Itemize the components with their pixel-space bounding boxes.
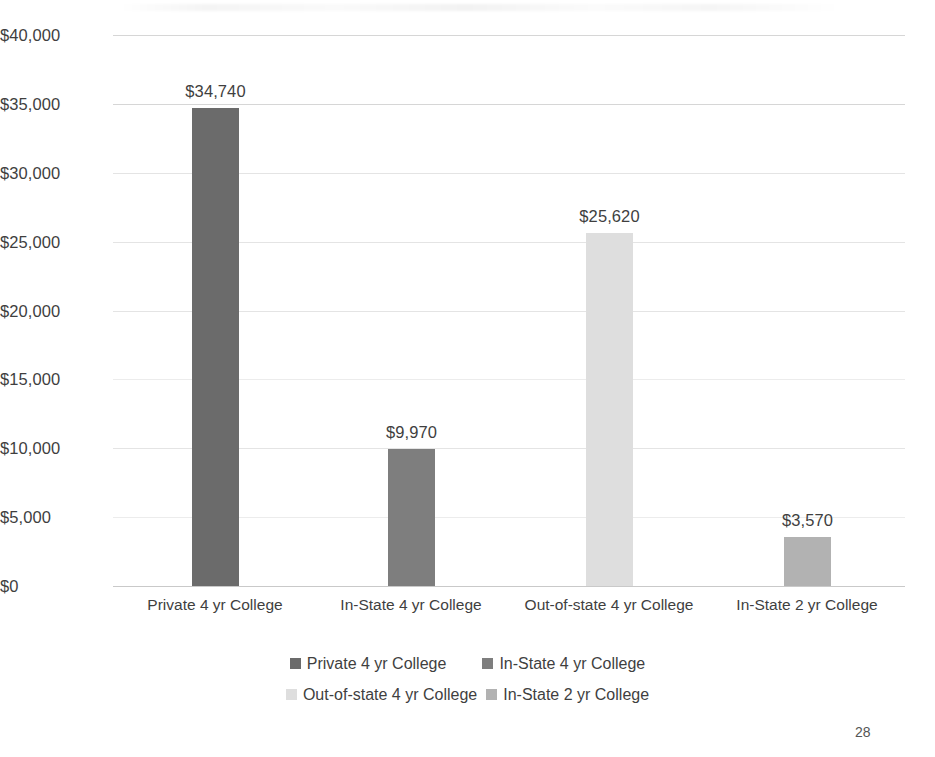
legend-swatch-icon [486,689,497,700]
bar-value-label: $3,570 [782,511,833,530]
bar-in-state-2yr-college[interactable]: $3,570 [784,537,831,586]
legend-label: In-State 2 yr College [503,686,649,704]
legend-row-2: Out-of-state 4 yr College In-State 2 yr … [0,679,935,710]
legend-label: Out-of-state 4 yr College [303,686,477,704]
bar-in-state-4yr-college[interactable]: $9,970 [388,449,435,586]
category-label-private-4yr: Private 4 yr College [147,596,282,614]
gridline-35000 [113,104,905,105]
plot-area: $34,740 $9,970 $25,620 $3,570 [113,35,905,586]
legend-label: In-State 4 yr College [499,655,645,673]
category-label-in-state-2yr: In-State 2 yr College [736,596,877,614]
bar-value-label: $34,740 [185,82,245,101]
legend-item-in-state-4yr-college[interactable]: In-State 4 yr College [482,655,645,673]
gridline-40000 [113,35,905,36]
bar-value-label: $9,970 [386,423,437,442]
legend-swatch-icon [290,658,301,669]
legend-row-1: Private 4 yr College In-State 4 yr Colle… [0,648,935,679]
legend-item-private-4yr-college[interactable]: Private 4 yr College [290,655,447,673]
legend-item-out-of-state-4yr-college[interactable]: Out-of-state 4 yr College [286,686,477,704]
legend-item-in-state-2yr-college[interactable]: In-State 2 yr College [486,686,649,704]
axis-baseline [113,586,905,587]
chart-legend: Private 4 yr College In-State 4 yr Colle… [0,648,935,710]
legend-swatch-icon [286,689,297,700]
bar-private-4yr-college[interactable]: $34,740 [192,108,239,587]
bar-value-label: $25,620 [579,207,639,226]
legend-label: Private 4 yr College [307,655,447,673]
page-number: 28 [855,724,871,740]
slide-page: $40,000 $35,000 $30,000 $25,000 $20,000 … [0,0,935,757]
category-label-out-of-state-4yr: Out-of-state 4 yr College [525,596,694,614]
legend-swatch-icon [482,658,493,669]
category-label-in-state-4yr: In-State 4 yr College [340,596,481,614]
tuition-bar-chart: $40,000 $35,000 $30,000 $25,000 $20,000 … [0,0,935,640]
bar-out-of-state-4yr-college[interactable]: $25,620 [586,233,633,586]
